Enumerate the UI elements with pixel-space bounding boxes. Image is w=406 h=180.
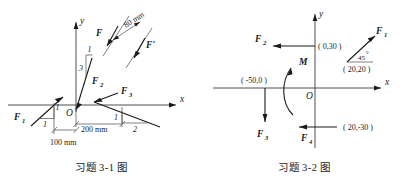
- force-F1-slope-rise: 1: [56, 103, 60, 112]
- coordinate-0-30: ( 0,30 ): [318, 42, 342, 51]
- force-F4-subscript: 4: [308, 138, 313, 145]
- force-F3-subscript: 3: [128, 91, 133, 98]
- moment-M: [284, 68, 293, 115]
- force-F3: [94, 93, 160, 127]
- force-F1-subscript: 1: [384, 31, 387, 38]
- force-F2-subscript: 2: [262, 39, 267, 46]
- force-F3-subscript: 3: [264, 134, 269, 141]
- x-axis-label: x: [384, 77, 390, 87]
- force-F3-label: F: [256, 129, 264, 139]
- figure-3-1-caption: 习题 3-1 图: [0, 159, 203, 174]
- x-axis: [8, 103, 176, 108]
- dimension-100mm: 100 mm: [50, 138, 77, 147]
- coordinate-20-m30: ( 20,-30 ): [343, 123, 373, 132]
- figure-3-1-drawing: x y O F 1 1 1 F 2: [0, 0, 203, 158]
- force-F3-slope-rise: 1: [114, 113, 118, 122]
- force-F4-label: F: [300, 133, 308, 143]
- y-axis: [74, 22, 79, 112]
- angle-45-degree-symbol: °: [366, 50, 369, 58]
- force-F2-slope-rise: 1: [88, 45, 92, 54]
- force-F1-label: F: [13, 112, 21, 122]
- force-F1-slope-run: 1: [43, 120, 47, 129]
- figure-3-2-drawing: x y O F 2 ( 0,30 ) F 1 45 ° ( 20,20 ): [203, 0, 406, 158]
- force-F2-subscript: 2: [99, 81, 104, 88]
- force-F2-label: F: [254, 34, 262, 44]
- figure-page: x y O F 1 1 1 F 2: [0, 0, 406, 180]
- couple-force-Fprime-label: F': [145, 40, 155, 50]
- dimension-80mm: 80 mm: [122, 9, 146, 29]
- force-F3-label: F: [120, 86, 128, 96]
- x-axis-label: x: [179, 94, 185, 104]
- force-F3-slope-run: 2: [133, 125, 137, 134]
- force-F2-slope-run: 3: [78, 64, 83, 73]
- y-axis: [313, 14, 318, 148]
- y-axis-label: y: [318, 9, 324, 19]
- origin-label: O: [306, 91, 313, 101]
- coordinate-m50-0: ( -50,0 ): [241, 76, 267, 85]
- force-F4: [299, 125, 337, 130]
- origin-label: O: [66, 108, 73, 118]
- figure-3-1: x y O F 1 1 1 F 2: [0, 0, 203, 180]
- force-F1-label: F: [375, 26, 383, 36]
- coordinate-20-20: ( 20,20 ): [343, 65, 371, 74]
- moment-M-label: M: [298, 57, 308, 67]
- angle-45-value: 45: [358, 54, 366, 62]
- figure-3-2: x y O F 2 ( 0,30 ) F 1 45 ° ( 20,20 ): [203, 0, 406, 180]
- force-F1-subscript: 1: [22, 117, 25, 124]
- dimension-200mm: 200 mm: [81, 125, 108, 134]
- figure-3-2-caption: 习题 3-2 图: [203, 159, 406, 174]
- couple-force-F-label: F: [95, 28, 103, 38]
- force-F3: [263, 88, 268, 122]
- y-axis-label: y: [79, 16, 85, 26]
- force-F2-label: F: [91, 76, 99, 86]
- force-F2: [273, 44, 315, 49]
- x-axis: [213, 86, 381, 91]
